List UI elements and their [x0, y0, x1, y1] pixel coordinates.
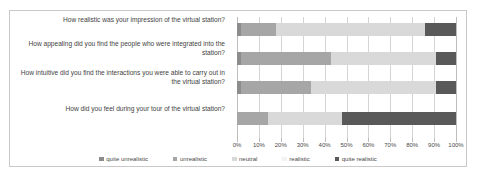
bar-segment-quite-realistic	[342, 112, 456, 125]
legend-label: realistic	[289, 156, 309, 162]
bar-segment-unrealistic	[241, 23, 276, 36]
bar-segment-unrealistic	[241, 81, 311, 94]
legend-swatch-icon	[99, 157, 104, 162]
x-tick-label: 100%	[441, 142, 471, 148]
legend-item[interactable]: realistic	[282, 156, 309, 162]
legend-label: quite realistic	[342, 156, 377, 162]
chart-legend: quite unrealisticunrealisticneutralreali…	[10, 156, 466, 162]
bar-segment-neutral	[268, 112, 342, 125]
category-label: How did you feel during your tour of the…	[15, 105, 225, 114]
legend-swatch-icon	[173, 157, 178, 162]
bar-row	[237, 81, 456, 94]
legend-item[interactable]: unrealistic	[173, 156, 207, 162]
bar-segment-neutral	[276, 23, 425, 36]
legend-label: neutral	[239, 156, 257, 162]
bar-segment-quite-realistic	[425, 23, 456, 36]
legend-label: unrealistic	[180, 156, 207, 162]
legend-swatch-icon	[232, 157, 237, 162]
category-label: How realistic was your impression of the…	[15, 16, 225, 25]
category-label: How appealing did you find the people wh…	[15, 40, 225, 57]
bar-segment-neutral	[331, 52, 436, 65]
legend-swatch-icon	[282, 157, 287, 162]
category-label: How intuitive did you find the interacti…	[15, 69, 225, 86]
bar-row	[237, 52, 456, 65]
gridline-100	[456, 17, 457, 139]
legend-item[interactable]: quite realistic	[335, 156, 377, 162]
plot-area	[237, 17, 456, 139]
bar-segment-neutral	[311, 81, 436, 94]
legend-item[interactable]: quite unrealistic	[99, 156, 148, 162]
bar-row	[237, 23, 456, 36]
legend-label: quite unrealistic	[106, 156, 148, 162]
legend-swatch-icon	[335, 157, 340, 162]
bar-segment-unrealistic	[237, 112, 268, 125]
chart-container: How realistic was your impression of the…	[9, 10, 467, 167]
bar-row	[237, 112, 456, 125]
x-axis-tick-group: 0%10%20%30%40%50%60%70%80%90%100%	[237, 142, 456, 152]
bar-segment-unrealistic	[241, 52, 331, 65]
legend-item[interactable]: neutral	[232, 156, 257, 162]
bar-segment-quite-realistic	[436, 81, 456, 94]
bar-segment-quite-realistic	[436, 52, 456, 65]
